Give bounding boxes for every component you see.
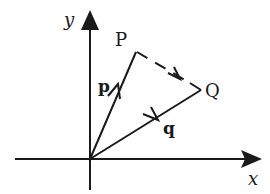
- point-p-label: P: [115, 29, 127, 50]
- y-axis-arrow-icon: [81, 10, 99, 30]
- vector-p-label: p: [98, 76, 110, 96]
- x-axis-label: x: [248, 168, 258, 189]
- vector-q-label: q: [163, 118, 175, 138]
- origin-point: [88, 157, 91, 160]
- vector-diagram: y x P Q p q: [0, 0, 270, 194]
- y-axis-label: y: [63, 9, 75, 30]
- vector-pq-end: [190, 83, 201, 90]
- vector-pq-dashed: [137, 52, 190, 83]
- vector-p: [90, 52, 136, 159]
- vector-q: [90, 90, 201, 159]
- point-q-label: Q: [205, 80, 220, 101]
- q-arrowhead-icon: [143, 107, 158, 120]
